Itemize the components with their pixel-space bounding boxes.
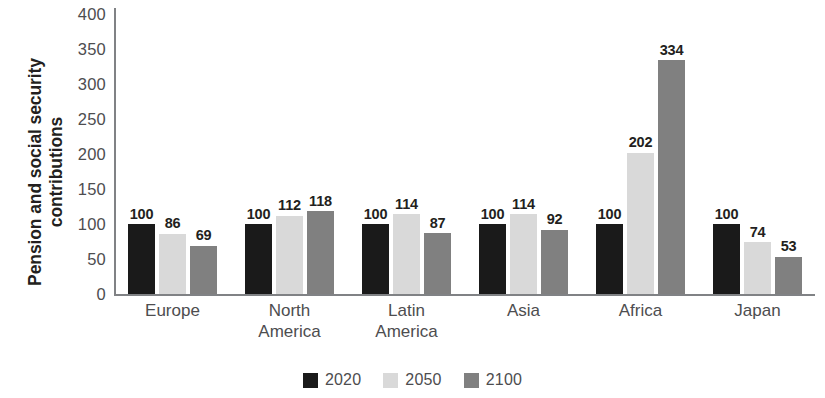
legend-label: 2020: [325, 372, 361, 388]
y-axis-title-line-1: Pension and social security: [25, 58, 46, 286]
category-label: LatinAmerica: [360, 300, 453, 343]
category-label-line: America: [360, 321, 453, 342]
bar-group: 100112118: [243, 8, 336, 294]
bar-item: 202: [627, 135, 654, 294]
bar-value-label: 118: [309, 194, 332, 209]
bar-item: 100: [128, 207, 155, 295]
bar: [596, 224, 623, 294]
bar-item: 100: [596, 207, 623, 295]
bar-value-label: 100: [364, 207, 388, 222]
y-tick-label: 100: [58, 216, 106, 233]
legend-label: 2100: [486, 372, 522, 388]
bar-item: 114: [510, 197, 537, 294]
bar-item: 87: [424, 216, 451, 294]
bar-item: 100: [713, 207, 740, 295]
bar-value-label: 86: [165, 216, 181, 231]
y-axis-tick-labels: 050100150200250300350400: [58, 0, 106, 310]
y-tick-label: 350: [58, 41, 106, 58]
bar-item: 53: [775, 239, 802, 294]
bar: [775, 257, 802, 294]
bar-chart: Pension and social security contribution…: [0, 0, 825, 398]
category-label-line: Latin: [360, 300, 453, 321]
legend-swatch-icon: [303, 373, 318, 388]
category-label: Europe: [126, 300, 219, 321]
category-label: Africa: [594, 300, 687, 321]
legend-item[interactable]: 2050: [383, 372, 441, 388]
legend-item[interactable]: 2020: [303, 372, 361, 388]
category-label-line: Asia: [477, 300, 570, 321]
bar: [479, 224, 506, 294]
bar-value-label: 74: [750, 225, 766, 240]
bar: [159, 234, 186, 294]
x-axis-line: [114, 294, 815, 296]
bar: [276, 216, 303, 294]
bar: [510, 214, 537, 294]
bar-value-label: 100: [598, 207, 622, 222]
bar-item: 86: [159, 216, 186, 294]
legend-item[interactable]: 2100: [464, 372, 522, 388]
bar-value-label: 87: [430, 216, 446, 231]
bar-group: 1007453: [711, 8, 804, 294]
y-tick-label: 250: [58, 111, 106, 128]
bar: [658, 60, 685, 294]
legend-label: 2050: [405, 372, 441, 388]
category-label-line: America: [243, 321, 336, 342]
y-tick-label: 150: [58, 181, 106, 198]
bar-item: 118: [307, 194, 334, 294]
category-label-line: North: [243, 300, 336, 321]
bar-item: 334: [658, 43, 685, 294]
bar: [424, 233, 451, 294]
y-tick-label: 50: [58, 251, 106, 268]
bar: [128, 224, 155, 294]
bar-value-label: 112: [278, 198, 301, 213]
bar-value-label: 114: [395, 197, 418, 212]
bar-item: 69: [190, 228, 217, 294]
chart-legend: 202020502100: [0, 372, 825, 388]
y-tick-label: 400: [58, 6, 106, 23]
bar: [393, 214, 420, 294]
category-label: Japan: [711, 300, 804, 321]
bar-group: 10011492: [477, 8, 570, 294]
bar-value-label: 100: [247, 207, 271, 222]
category-label-line: Japan: [711, 300, 804, 321]
bar: [190, 246, 217, 294]
y-tick-label: 300: [58, 76, 106, 93]
category-label-line: Africa: [594, 300, 687, 321]
bar: [362, 224, 389, 294]
bar-value-label: 69: [196, 228, 212, 243]
bar-value-label: 53: [781, 239, 797, 254]
bar: [744, 242, 771, 294]
bar-value-label: 100: [130, 207, 154, 222]
legend-swatch-icon: [383, 373, 398, 388]
bar-group: 10011487: [360, 8, 453, 294]
bar-value-label: 92: [547, 212, 563, 227]
plot-area: 1008669100112118100114871001149210020233…: [114, 8, 815, 294]
bar: [307, 211, 334, 294]
bar-item: 100: [479, 207, 506, 295]
category-label: NorthAmerica: [243, 300, 336, 343]
bar-item: 74: [744, 225, 771, 294]
category-label-line: Europe: [126, 300, 219, 321]
bar: [541, 230, 568, 294]
bar-group: 100202334: [594, 8, 687, 294]
bar-value-label: 100: [715, 207, 739, 222]
legend-swatch-icon: [464, 373, 479, 388]
y-tick-label: 200: [58, 146, 106, 163]
bar: [627, 153, 654, 294]
bar-value-label: 334: [660, 43, 684, 58]
bar-item: 112: [276, 198, 303, 294]
bar: [713, 224, 740, 294]
bar-group: 1008669: [126, 8, 219, 294]
bar-value-label: 100: [481, 207, 505, 222]
bar-item: 100: [245, 207, 272, 295]
x-axis-category-labels: EuropeNorthAmericaLatinAmericaAsiaAfrica…: [114, 300, 815, 350]
category-label: Asia: [477, 300, 570, 321]
bar-item: 92: [541, 212, 568, 294]
bar-value-label: 202: [629, 135, 653, 150]
bar-item: 100: [362, 207, 389, 295]
bar: [245, 224, 272, 294]
bar-value-label: 114: [512, 197, 535, 212]
y-tick-label: 0: [58, 286, 106, 303]
bar-item: 114: [393, 197, 420, 294]
